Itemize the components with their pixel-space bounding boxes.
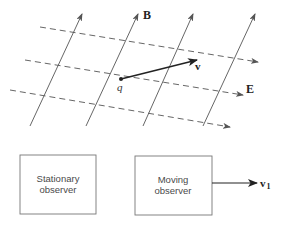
velocity-vector	[121, 60, 197, 79]
e-field-line	[25, 60, 243, 95]
electric-field-label: E	[246, 82, 254, 96]
moving-observer-label-line1: Moving	[158, 174, 189, 185]
velocity-label: v	[195, 60, 201, 72]
charge-velocity: q v	[117, 60, 201, 93]
e-field-line	[10, 90, 230, 127]
moving-observer-label-line2: observer	[155, 185, 192, 196]
electric-field-lines	[10, 27, 258, 127]
b-field-line	[203, 14, 255, 126]
charge-label: q	[117, 81, 123, 93]
e-field-line	[40, 27, 258, 62]
stationary-observer: Stationary observer	[20, 155, 96, 214]
observer-velocity-symbol: v	[260, 177, 266, 189]
b-field-line	[30, 14, 82, 126]
stationary-observer-label-line2: observer	[40, 184, 77, 195]
field-diagram: B E q v Stationary observer Moving obser…	[0, 0, 282, 225]
magnetic-field-label: B	[143, 8, 151, 22]
stationary-observer-label-line1: Stationary	[37, 173, 80, 184]
b-field-line	[86, 14, 138, 126]
b-field-line	[143, 14, 193, 126]
observer-velocity-subscript: 1	[267, 182, 271, 191]
moving-observer: Moving observer v1	[135, 156, 271, 215]
observer-velocity-label: v1	[260, 177, 271, 191]
